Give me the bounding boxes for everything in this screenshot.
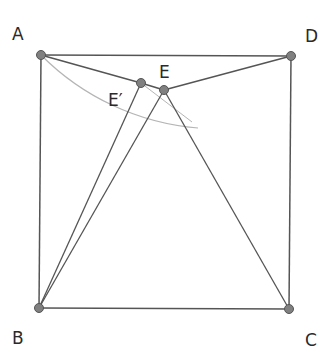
label-D: D [305, 26, 318, 46]
segment-BEprime [39, 83, 141, 308]
side-DC [289, 56, 291, 309]
side-AD [41, 55, 291, 56]
geometry-diagram: A D B C E E′ [0, 0, 333, 358]
segment-BE [39, 90, 164, 308]
segment-ED [164, 56, 291, 90]
point-E [160, 86, 169, 95]
point-E-prime [137, 79, 146, 88]
point-B [35, 304, 44, 313]
label-B: B [12, 328, 24, 348]
label-A: A [12, 24, 24, 44]
point-C [285, 305, 294, 314]
label-E-prime: E′ [108, 90, 123, 110]
point-D [287, 52, 296, 61]
side-BC [39, 308, 289, 309]
label-C: C [305, 330, 317, 350]
segment-EC [164, 90, 289, 309]
point-A [37, 51, 46, 60]
label-E: E [159, 62, 170, 82]
side-AB [39, 55, 41, 308]
